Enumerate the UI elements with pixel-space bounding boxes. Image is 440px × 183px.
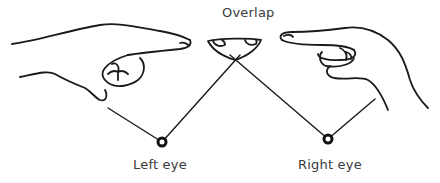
right-eye-label: Right eye xyxy=(298,157,362,172)
left-hand-icon xyxy=(12,24,191,100)
right-hand-icon xyxy=(280,28,428,111)
diagram-drawing xyxy=(0,0,440,183)
left-eye-icon xyxy=(158,138,166,146)
overlap-fingertips-icon xyxy=(208,39,261,60)
diagram-canvas: Overlap Left eye Right eye xyxy=(0,0,440,183)
right-eye-icon xyxy=(324,135,332,143)
overlap-label: Overlap xyxy=(222,5,275,20)
sight-lines xyxy=(108,55,375,142)
left-eye-label: Left eye xyxy=(133,157,187,172)
